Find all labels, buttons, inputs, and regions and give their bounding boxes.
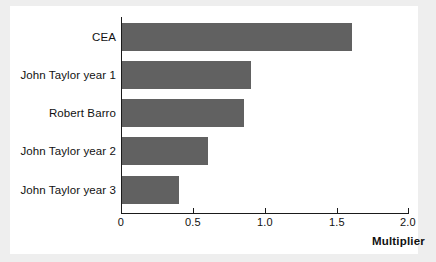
x-axis-ticklabel-0: 0	[118, 216, 124, 228]
category-label-robert-barro-wrap: Robert Barro	[0, 107, 116, 121]
figure-background: 0 0.5 1.0 1.5 2.0 CEA John Taylor year 1…	[0, 0, 436, 262]
category-label-john-taylor-year-1: John Taylor year 1	[4, 69, 116, 81]
bar-john-taylor-year-3	[122, 176, 179, 204]
x-axis-ticklabel-2: 1.0	[257, 216, 273, 228]
category-label-cea-wrap: CEA	[0, 31, 116, 45]
category-label-john-taylor-year-2: John Taylor year 2	[4, 145, 116, 157]
x-axis-title: Multiplier	[372, 235, 425, 247]
bar-john-taylor-year-1	[122, 61, 251, 89]
x-axis-tick-4	[408, 208, 409, 213]
category-label-robert-barro: Robert Barro	[4, 107, 116, 119]
category-label-john-taylor-year-3-wrap: John Taylor year 3	[0, 184, 116, 198]
x-axis-ticklabel-3: 1.5	[329, 216, 345, 228]
x-axis-tick-1	[193, 208, 194, 213]
category-label-john-taylor-year-1-wrap: John Taylor year 1	[0, 69, 116, 83]
bar-robert-barro	[122, 99, 244, 127]
chart-plot-area: 0 0.5 1.0 1.5 2.0 CEA John Taylor year 1…	[0, 0, 436, 262]
category-label-john-taylor-year-2-wrap: John Taylor year 2	[0, 145, 116, 159]
category-label-cea: CEA	[4, 31, 116, 43]
x-axis-ticklabel-1: 0.5	[185, 216, 201, 228]
x-axis-tick-3	[337, 208, 338, 213]
bar-john-taylor-year-2	[122, 137, 208, 165]
x-axis-tick-2	[265, 208, 266, 213]
bar-cea	[122, 23, 352, 51]
x-axis-line	[121, 213, 409, 214]
x-axis-tick-0	[121, 208, 122, 213]
x-axis-ticklabel-4: 2.0	[400, 216, 416, 228]
category-label-john-taylor-year-3: John Taylor year 3	[4, 184, 116, 196]
